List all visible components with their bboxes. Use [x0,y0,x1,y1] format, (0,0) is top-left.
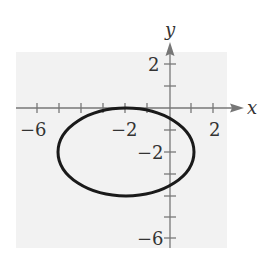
y-axis-arrow-icon [166,42,175,56]
ellipse-plot: x y −6 −2 2 2 −2 −6 [0,0,267,255]
x-tick-label-neg6: −6 [20,119,47,140]
y-axis-label: y [164,19,176,40]
x-tick-label-pos2: 2 [209,119,220,140]
x-axis-arrow-icon [230,104,244,113]
y-tick-label-neg2: −2 [137,142,164,163]
y-tick-label-pos2: 2 [148,54,159,75]
x-axis-label: x [247,97,257,118]
x-tick-label-neg2: −2 [111,119,138,140]
y-tick-label-neg6: −6 [137,228,164,249]
